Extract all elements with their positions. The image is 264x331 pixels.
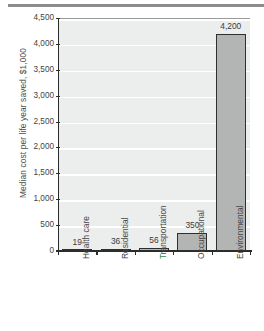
x-category-label: Transportation (158, 205, 168, 259)
y-tick-label: 0 (49, 247, 54, 255)
x-category-label: Environmental (235, 205, 245, 259)
y-tick-mark (56, 122, 60, 123)
y-tick-mark (56, 147, 60, 148)
x-tick-mark (173, 250, 174, 255)
x-category-label: Residential (120, 218, 130, 259)
x-category-label: Health care (81, 216, 91, 259)
y-tick-mark (56, 173, 60, 174)
x-tick-mark (250, 250, 251, 255)
y-tick-mark (56, 96, 60, 97)
bar-chart-figure: Median cost per life year saved, $1,000 … (0, 0, 264, 331)
x-tick-mark (212, 250, 213, 255)
bar-value-label: 4,200 (211, 21, 251, 31)
bar-value-label: 56 (134, 235, 174, 245)
top-divider-rule (8, 4, 264, 7)
y-tick-label: 3,500 (34, 66, 55, 74)
y-tick-label: 3,000 (34, 92, 55, 100)
y-tick-mark (56, 225, 60, 226)
y-tick-mark (56, 70, 60, 71)
y-tick-label: 4,000 (34, 40, 55, 48)
bar-value-label: 350 (172, 220, 212, 230)
y-tick-label: 1,500 (34, 169, 55, 177)
y-tick-mark (56, 251, 60, 252)
y-tick-label: 1,000 (34, 195, 55, 203)
y-tick-label: 500 (40, 221, 54, 229)
y-axis-tick-labels: 05001,0001,5002,0002,5003,0003,5004,0004… (22, 18, 54, 251)
y-tick-label: 2,500 (34, 118, 55, 126)
y-tick-mark (56, 18, 60, 19)
x-category-label: Occupational (196, 210, 206, 259)
y-tick-mark (56, 199, 60, 200)
x-tick-mark (96, 250, 97, 255)
y-tick-label: 2,000 (34, 143, 55, 151)
bar-value-label: 19 (57, 237, 97, 247)
y-tick-mark (56, 44, 60, 45)
y-tick-label: 4,500 (34, 14, 55, 22)
x-tick-mark (135, 250, 136, 255)
